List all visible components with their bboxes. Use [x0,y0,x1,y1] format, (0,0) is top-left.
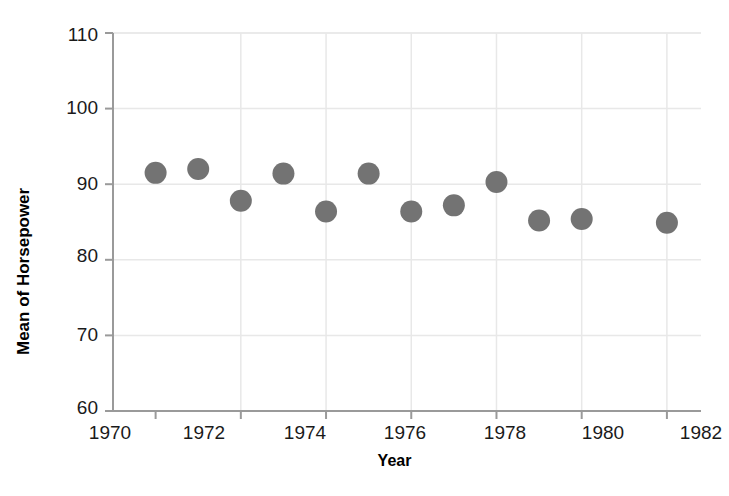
data-point-1973 [272,163,294,185]
data-point-1974 [315,200,337,222]
data-point-1970 [145,162,167,184]
data-point-1982 [656,212,678,234]
data-point-1972 [230,190,252,212]
gridlines [113,33,701,411]
plot-area [0,0,729,496]
data-point-1976 [400,200,422,222]
data-point-1971 [187,158,209,180]
data-point-1980 [571,208,593,230]
data-point-1978 [485,171,507,193]
axis-lines [113,33,701,411]
data-point-1977 [443,194,465,216]
data-point-1979 [528,209,550,231]
scatter-chart: Mean of Horsepower Year 110 100 90 80 70… [0,0,729,496]
data-point-1975 [358,163,380,185]
